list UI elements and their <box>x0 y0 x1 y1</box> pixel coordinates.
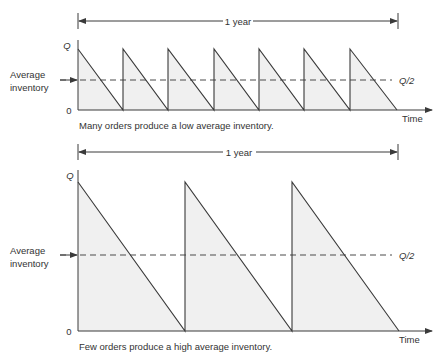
inventory-cycle-figure: 1 year Q 0 Average inventory Q/2 Time Ma… <box>0 0 444 363</box>
bottom-average-label-line1: Average <box>10 245 45 256</box>
bottom-time-label: Time <box>399 334 420 345</box>
top-chart: 1 year Q 0 Average inventory Q/2 Time Ma… <box>10 13 432 131</box>
top-period-label: 1 year <box>225 16 251 27</box>
top-half-q-label: Q/2 <box>399 75 415 86</box>
bottom-q-label: Q <box>66 170 74 181</box>
top-average-label-line2: inventory <box>10 82 49 93</box>
top-time-label: Time <box>402 113 423 124</box>
top-q-label: Q <box>63 40 71 51</box>
top-caption: Many orders produce a low average invent… <box>79 120 274 131</box>
bottom-period-label: 1 year <box>226 147 252 158</box>
top-average-label-line1: Average <box>10 69 45 80</box>
bottom-zero-label: 0 <box>66 326 71 337</box>
bottom-period-bracket: 1 year <box>78 144 398 160</box>
top-zero-label: 0 <box>66 105 71 116</box>
bottom-chart: 1 year Q 0 Average inventory Q/2 Time Fe… <box>10 144 432 352</box>
bottom-caption: Few orders produce a high average invent… <box>79 341 272 352</box>
bottom-half-q-label: Q/2 <box>399 250 415 261</box>
top-period-bracket: 1 year <box>78 13 398 29</box>
bottom-average-label-line2: inventory <box>10 258 49 269</box>
